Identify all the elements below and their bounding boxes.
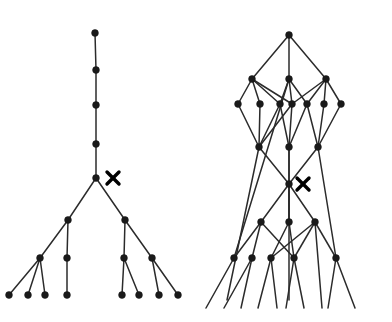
graph-node[interactable] (93, 67, 100, 74)
graph-node[interactable] (286, 76, 293, 83)
graph-node[interactable] (249, 76, 256, 83)
graph-node[interactable] (6, 292, 13, 299)
graph-node[interactable] (136, 292, 143, 299)
graph-node[interactable] (93, 175, 100, 182)
graph-node[interactable] (315, 144, 322, 151)
graph-node[interactable] (268, 255, 275, 262)
graph-node[interactable] (121, 255, 128, 262)
graph-node[interactable] (312, 219, 319, 226)
graph-node[interactable] (333, 255, 340, 262)
graph-node[interactable] (92, 30, 99, 37)
graph-node[interactable] (321, 101, 328, 108)
graph-node[interactable] (257, 101, 264, 108)
figure-canvas (0, 0, 392, 322)
diagram-svg (0, 0, 392, 322)
graph-node[interactable] (64, 255, 71, 262)
graph-node[interactable] (286, 219, 293, 226)
graph-edge (67, 220, 68, 258)
graph-node[interactable] (258, 219, 265, 226)
graph-edge (95, 33, 96, 70)
graph-node[interactable] (291, 255, 298, 262)
graph-node[interactable] (93, 141, 100, 148)
graph-edge (259, 104, 260, 147)
graph-node[interactable] (277, 101, 284, 108)
graph-node[interactable] (286, 144, 293, 151)
graph-node[interactable] (64, 292, 71, 299)
graph-node[interactable] (249, 255, 256, 262)
graph-node[interactable] (42, 292, 49, 299)
graph-edge (124, 220, 125, 258)
graph-node[interactable] (323, 76, 330, 83)
graph-node[interactable] (286, 181, 293, 188)
graph-node[interactable] (304, 101, 311, 108)
graph-node[interactable] (156, 292, 163, 299)
graph-node[interactable] (25, 292, 32, 299)
graph-node[interactable] (149, 255, 156, 262)
graph-node[interactable] (119, 292, 126, 299)
graph-node[interactable] (37, 255, 44, 262)
graph-node[interactable] (175, 292, 182, 299)
graph-node[interactable] (235, 101, 242, 108)
graph-node[interactable] (231, 255, 238, 262)
graph-node[interactable] (286, 32, 293, 39)
graph-node[interactable] (65, 217, 72, 224)
graph-node[interactable] (122, 217, 129, 224)
graph-node[interactable] (256, 144, 263, 151)
graph-node[interactable] (289, 101, 296, 108)
graph-node[interactable] (338, 101, 345, 108)
graph-node[interactable] (93, 102, 100, 109)
